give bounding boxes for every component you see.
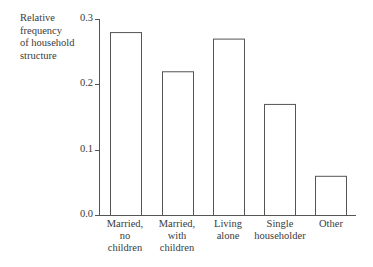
bar-living-alone <box>214 39 245 215</box>
bar-single-householder <box>265 104 296 215</box>
bars <box>111 33 347 216</box>
bar-married-no-children <box>111 33 142 216</box>
bar-other <box>316 176 347 215</box>
bar-married-with-children <box>163 72 194 216</box>
x-category-label-other: Other <box>296 218 366 230</box>
